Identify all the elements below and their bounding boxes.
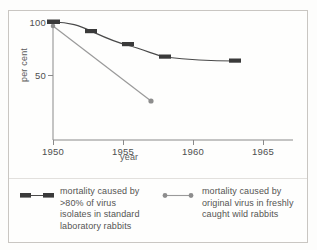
legend-line: mortality caused by: [60, 186, 140, 198]
legend-entry-lab-rabbits: mortality caused by >80% of virus isolat…: [20, 186, 148, 232]
legend-line: caught wild rabbits: [202, 209, 294, 221]
circle-line-marker-icon: [162, 187, 196, 198]
x-tick-label-1960: 1960: [176, 146, 210, 157]
legend-label-wild-rabbits: mortality caused by original virus in fr…: [202, 186, 294, 221]
legend-label-lab-rabbits: mortality caused by >80% of virus isolat…: [60, 186, 140, 232]
chart-legend: mortality caused by >80% of virus isolat…: [20, 186, 300, 232]
legend-divider: [9, 178, 307, 179]
legend-line: >80% of virus: [60, 198, 140, 210]
x-tick-label-1965: 1965: [246, 146, 280, 157]
x-axis-title: year: [120, 152, 138, 162]
chart-screenshot: 100 50 1950 1955 1960 1965 per cent year…: [0, 0, 317, 250]
y-axis-title: per cent: [19, 35, 29, 95]
square-line-marker-icon: [20, 187, 54, 198]
legend-line: original virus in freshly: [202, 198, 294, 210]
legend-line: mortality caused by: [202, 186, 294, 198]
legend-entry-wild-rabbits: mortality caused by original virus in fr…: [162, 186, 298, 232]
x-tick-label-1950: 1950: [36, 146, 70, 157]
legend-line: isolates in standard: [60, 209, 140, 221]
legend-line: laboratory rabbits: [60, 221, 140, 233]
y-tick-label-100: 100: [20, 17, 46, 28]
